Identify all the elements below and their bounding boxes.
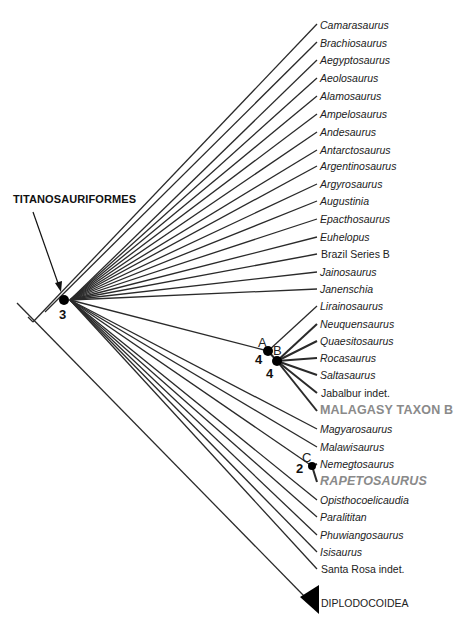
node-letter-B: B [273, 343, 282, 358]
node-support-B: 4 [266, 366, 273, 381]
node-letter-A: A [258, 335, 267, 350]
node-support-C: 2 [296, 461, 303, 476]
node-support-titanosauriformes: 3 [59, 307, 66, 322]
node-letter-C: C [302, 450, 311, 465]
node-support-A: 4 [255, 352, 262, 367]
arrow-icon [0, 0, 456, 623]
